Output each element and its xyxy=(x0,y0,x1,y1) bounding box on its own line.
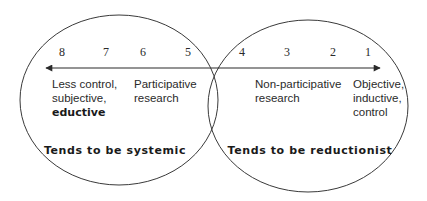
participative-label-line-2: research xyxy=(134,92,179,104)
right-descriptor-line-3: control xyxy=(353,106,388,118)
scale-number-2: 2 xyxy=(330,45,336,59)
right-descriptor-line-1: Objective, xyxy=(353,78,404,90)
participative-label-line-1: Participative xyxy=(134,78,197,90)
right-descriptor-line-2: inductive, xyxy=(353,92,402,104)
left-descriptor-line-2: subjective, xyxy=(52,92,106,104)
systemic-tendency-label: Tends to be systemic xyxy=(44,144,186,157)
scale-number-8: 8 xyxy=(59,45,65,59)
scale-number-5: 5 xyxy=(185,45,191,59)
non-participative-label-line-2: research xyxy=(255,92,300,104)
venn-continuum-diagram: 8 7 6 5 4 3 2 1 Less control, subjective… xyxy=(0,0,427,201)
left-descriptor-line-3: eductive xyxy=(52,106,105,119)
scale-number-1: 1 xyxy=(365,45,371,59)
reductionist-tendency-label: Tends to be reductionist xyxy=(228,144,393,157)
non-participative-label-line-1: Non-participative xyxy=(255,78,341,90)
scale-number-6: 6 xyxy=(140,45,146,59)
scale-number-4: 4 xyxy=(239,45,245,59)
scale-number-7: 7 xyxy=(103,45,109,59)
scale-number-3: 3 xyxy=(284,45,290,59)
left-ellipse-systemic xyxy=(20,15,218,185)
left-descriptor-line-1: Less control, xyxy=(52,78,117,90)
